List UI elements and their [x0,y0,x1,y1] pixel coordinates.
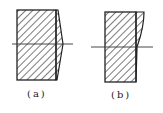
panel-b-shape [91,12,153,82]
panel-a-label: (a) [27,88,47,99]
figure-canvas [0,0,163,113]
panel-a-shape [12,10,73,80]
panel-b-label: (b) [111,89,131,100]
